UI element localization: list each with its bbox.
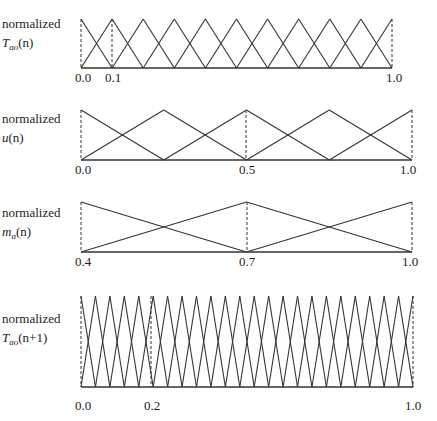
panel-tao-n1: normalized Tao(n+1) 0.0 0.2 1.0 bbox=[0, 0, 437, 421]
tick-2: 1.0 bbox=[405, 398, 421, 414]
tick-1: 0.2 bbox=[144, 398, 160, 414]
membership-functions-tao-n1 bbox=[0, 0, 437, 421]
tick-0: 0.0 bbox=[75, 398, 91, 414]
